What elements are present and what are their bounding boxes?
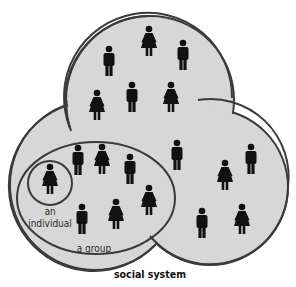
diagram-canvas: an individual a group social system [0,0,296,287]
group-label: a group [77,243,112,254]
right-circle-fill [134,111,287,264]
social-system-label: social system [114,268,186,280]
social-system-diagram: an individual a group social system [0,0,296,287]
individual-label-line2: individual [28,218,72,229]
individual-label-line1: an [44,206,55,217]
